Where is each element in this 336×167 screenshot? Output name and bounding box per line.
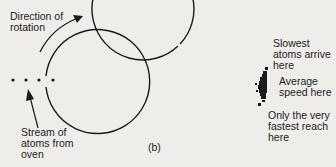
- atom-deposit-cluster: [255, 67, 268, 106]
- stream-pointer-line: [30, 97, 38, 128]
- rotating-drum-left: [46, 30, 150, 134]
- rotation-label: Direction of rotation: [10, 11, 63, 33]
- atom-stream: [11, 78, 54, 81]
- stream-pointer-arrowhead-icon: [26, 89, 34, 101]
- panel-label: (b): [148, 142, 161, 153]
- fastest-label: Only the very fastest reach here: [268, 110, 330, 143]
- stream-label: Stream of atoms from oven: [21, 127, 74, 160]
- slowest-label: Slowest atoms arrive here: [273, 38, 331, 71]
- average-label: Average speed here: [279, 76, 332, 98]
